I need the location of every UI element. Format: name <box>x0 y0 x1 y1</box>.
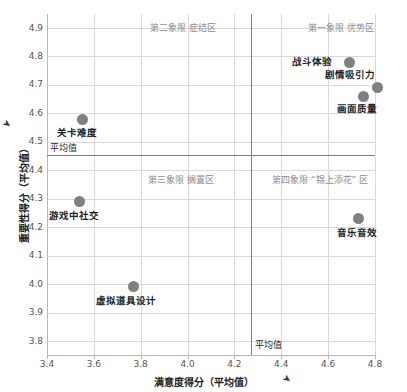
gridline-vertical <box>234 14 235 355</box>
mean-line-vertical <box>251 14 252 355</box>
data-point <box>77 114 88 125</box>
data-point-label: 剧情吸引力 <box>325 69 375 80</box>
x-tick-label: 4.8 <box>355 359 395 369</box>
gridline-horizontal <box>47 341 375 342</box>
data-point <box>372 82 383 93</box>
data-point <box>358 91 369 102</box>
gridline-horizontal <box>47 227 375 228</box>
x-tick-label: 3.8 <box>121 359 161 369</box>
mean-line-horizontal <box>47 155 375 156</box>
data-point <box>344 57 355 68</box>
gridline-horizontal <box>47 85 375 86</box>
x-tickmark <box>47 355 48 359</box>
x-tick-label: 4.0 <box>168 359 208 369</box>
y-axis-arrow-icon: ➤ <box>3 118 11 129</box>
x-tick-label: 4.2 <box>214 359 254 369</box>
gridline-horizontal <box>47 256 375 257</box>
y-tick-label: 4.0 <box>3 280 43 289</box>
gridline-horizontal <box>47 199 375 200</box>
x-tickmark <box>234 355 235 359</box>
x-tickmark <box>328 355 329 359</box>
x-tickmark <box>375 355 376 359</box>
mean-label-y: 平均值 <box>50 143 77 153</box>
x-tick-label: 4.4 <box>261 359 301 369</box>
quadrant-label-top-left: 第二象限 症结区 <box>150 23 216 33</box>
x-axis-line <box>47 355 375 356</box>
gridline-horizontal <box>47 284 375 285</box>
quadrant-label-bottom-right: 第四象限 “锦上添花” 区 <box>272 175 368 185</box>
quadrant-scatter-chart: 4.94.84.74.64.54.44.34.24.14.03.93.8 3.4… <box>0 0 407 392</box>
gridline-horizontal <box>47 113 375 114</box>
y-tick-label: 4.8 <box>3 52 43 61</box>
x-tickmark <box>281 355 282 359</box>
y-tick-label: 4.7 <box>3 80 43 89</box>
quadrant-label-bottom-left: 第三象限 搁置区 <box>148 175 214 185</box>
quadrant-label-top-right: 第一象限 优势区 <box>308 23 374 33</box>
x-tick-label: 3.6 <box>74 359 114 369</box>
y-axis-title: 重要性得分（平均值） <box>16 108 31 278</box>
gridline-vertical <box>375 14 376 355</box>
x-tick-label: 4.6 <box>308 359 348 369</box>
gridline-horizontal <box>47 142 375 143</box>
gridline-horizontal <box>47 313 375 314</box>
data-point-label: 战斗体验 <box>292 56 332 67</box>
gridline-horizontal <box>47 170 375 171</box>
mean-label-x: 平均值 <box>255 340 282 350</box>
y-axis-line <box>47 14 48 355</box>
x-tick-label: 3.4 <box>27 359 67 369</box>
y-tick-label: 4.9 <box>3 24 43 33</box>
data-point-label: 音乐音效 <box>337 227 377 238</box>
data-point-label: 游戏中社交 <box>49 210 99 221</box>
x-tickmark <box>94 355 95 359</box>
x-axis-title: 满意度得分（平均值） <box>0 374 407 389</box>
x-tickmark <box>188 355 189 359</box>
y-tick-label: 3.8 <box>3 337 43 346</box>
x-tickmark <box>141 355 142 359</box>
y-tick-label: 3.9 <box>3 308 43 317</box>
x-axis-arrow-icon: ➤ <box>283 373 291 384</box>
data-point-label: 虚拟道具设计 <box>96 295 156 306</box>
data-point-label: 关卡难度 <box>57 127 97 138</box>
data-point-label: 画面质量 <box>337 103 377 114</box>
